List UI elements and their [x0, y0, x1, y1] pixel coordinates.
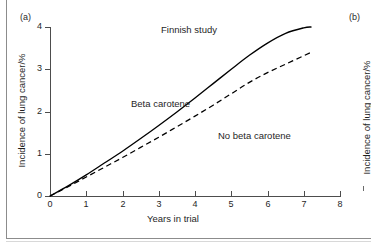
panel-a: (a) 0 1 2 3 4 0 1 2 3 4 5 6 7 8 In — [0, 0, 371, 244]
series-plot-layer — [0, 0, 371, 244]
annotation-series-beta-carotene: Beta carotene — [131, 98, 190, 109]
annotation-chart-title: Finnish study — [161, 24, 217, 35]
series-line-no-beta-carotene — [50, 52, 311, 196]
annotation-series-no-beta-carotene: No beta carotene — [218, 130, 291, 141]
panel-b-label: (b) — [349, 12, 360, 22]
panel-b-axis-tick — [363, 186, 364, 191]
panel-b-y-axis-title: Incidence of lung cancer/% — [361, 43, 371, 193]
panel-b: (b) Incidence of lung cancer/% — [341, 0, 371, 244]
figure-canvas: (a) 0 1 2 3 4 0 1 2 3 4 5 6 7 8 In — [0, 0, 371, 244]
series-line-beta-carotene — [50, 27, 311, 196]
